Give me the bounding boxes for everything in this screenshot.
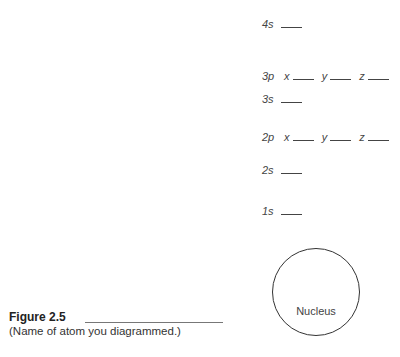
axis-y-label: y (322, 69, 328, 83)
orbital-label: 3p (262, 69, 281, 83)
nucleus-circle: Nucleus (272, 248, 360, 336)
orbital-1s: 1s (262, 204, 307, 218)
orbital-label: 1s (262, 204, 281, 218)
axis-z-label: z (359, 130, 365, 144)
orbital-4s: 4s (262, 17, 307, 31)
atom-name-blank[interactable] (85, 322, 223, 323)
electron-blank-y[interactable] (330, 70, 351, 80)
orbital-2p: 2p x y z (262, 130, 394, 144)
axis-x-label: x (284, 69, 290, 83)
electron-blank-x[interactable] (293, 70, 314, 80)
orbital-2s: 2s (262, 163, 307, 177)
electron-blank[interactable] (281, 205, 302, 215)
electron-blank-x[interactable] (293, 131, 314, 141)
axis-y-label: y (322, 130, 328, 144)
electron-blank[interactable] (281, 18, 302, 28)
electron-blank-z[interactable] (368, 131, 389, 141)
orbital-label: 3s (262, 92, 281, 106)
electron-blank-y[interactable] (330, 131, 351, 141)
axis-z-label: z (359, 69, 365, 83)
axis-x-label: x (284, 130, 290, 144)
electron-blank[interactable] (281, 93, 302, 103)
figure-caption: (Name of atom you diagrammed.) (9, 325, 181, 337)
orbital-3s: 3s (262, 92, 307, 106)
electron-blank[interactable] (281, 164, 302, 174)
orbital-label: 4s (262, 17, 281, 31)
orbital-label: 2p (262, 130, 281, 144)
orbital-label: 2s (262, 163, 281, 177)
nucleus-label: Nucleus (273, 305, 359, 317)
figure-title: Figure 2.5 (9, 310, 66, 324)
orbital-3p: 3p x y z (262, 69, 394, 83)
electron-blank-z[interactable] (368, 70, 389, 80)
